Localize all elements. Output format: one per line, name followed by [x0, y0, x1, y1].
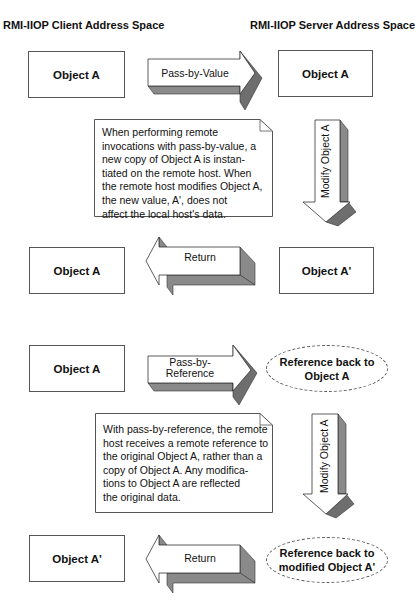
pass-by-reference-label: Pass-by- Reference — [155, 357, 225, 379]
note-line: With pass-by-reference, the remote — [103, 423, 261, 437]
note-line: invocations with pass-by-value, a — [102, 140, 261, 154]
note-line: tiated on the remote host. When — [102, 167, 261, 181]
pass-by-value-arrow-icon — [145, 48, 265, 118]
server-object-a-box: Object A — [278, 50, 373, 97]
note-line: the original Object A, rather than a — [103, 450, 261, 464]
modify-object-a-2-label: Modify Object A — [318, 419, 330, 493]
server-object-a-label: Object A — [302, 68, 349, 80]
note-line: affect the local host's data. — [102, 208, 261, 222]
pass-by-reference-label-line2: Reference — [155, 368, 225, 379]
reference-line1: Reference back to — [280, 355, 375, 369]
reference-back-to-object-a: Reference back to Object A — [266, 345, 388, 392]
return-client-object-a-label: Object A — [54, 265, 101, 277]
note-line: the original data. — [103, 491, 261, 505]
client-object-a-box: Object A — [28, 51, 125, 98]
reference-modified-line2: modified Object A' — [279, 560, 375, 574]
pass-by-value-note: When performing remote invocations with … — [94, 119, 273, 217]
reference-line2: Object A — [280, 369, 375, 383]
ref-client-object-a-label: Object A — [54, 363, 101, 375]
note-line: the remote host modifies Object A, — [102, 180, 261, 194]
return-2-label: Return — [170, 553, 230, 564]
note-line: copy of Object A. Any modifica- — [103, 464, 261, 478]
ref-client-object-a-box: Object A — [29, 345, 125, 392]
return-client-object-a-box: Object A — [29, 247, 125, 294]
note-line: new copy of Object A is instan- — [102, 153, 261, 167]
return-client-object-a-prime-box: Object A' — [29, 535, 125, 582]
server-object-a-prime-box: Object A' — [279, 247, 374, 294]
reference-back-to-modified-object-a: Reference back to modified Object A' — [266, 537, 388, 583]
note-line: the new value, A', does not — [102, 194, 261, 208]
return-client-object-a-prime-label: Object A' — [52, 553, 102, 565]
note-line: host receives a remote reference to — [103, 437, 261, 451]
server-object-a-prime-label: Object A' — [302, 265, 352, 277]
modify-object-a-arrow-2-icon — [300, 412, 360, 522]
pass-by-value-note-text: When performing remote invocations with … — [102, 126, 261, 221]
return-arrow-2-icon — [145, 533, 265, 600]
server-address-space-header: RMI-IIOP Server Address Space — [250, 19, 415, 31]
reference-modified-line1: Reference back to — [279, 546, 375, 560]
modify-object-a-label: Modify Object A — [319, 124, 331, 198]
note-line: When performing remote — [102, 126, 261, 140]
client-object-a-label: Object A — [53, 69, 100, 81]
pass-by-reference-note-text: With pass-by-reference, the remote host … — [103, 423, 261, 505]
pass-by-value-label: Pass-by-Value — [150, 68, 240, 79]
return-label: Return — [170, 252, 230, 263]
return-arrow-icon — [145, 235, 265, 305]
client-address-space-header: RMI-IIOP Client Address Space — [3, 19, 164, 31]
pass-by-reference-note: With pass-by-reference, the remote host … — [95, 413, 273, 513]
note-line: tions to Object A are reflected — [103, 477, 261, 491]
